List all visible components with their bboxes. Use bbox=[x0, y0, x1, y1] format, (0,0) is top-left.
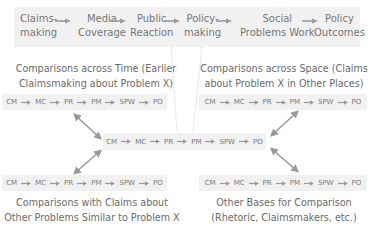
caption-time-comparison: Comparisons across Time (Earlier Claimsm… bbox=[10, 61, 182, 91]
right-arrow-icon bbox=[139, 100, 149, 105]
caption-other-bases-comparison: Other Bases for Comparison (Rhetoric, Cl… bbox=[196, 195, 372, 225]
abbr-mc: MC bbox=[34, 179, 47, 187]
chain-row-center: CM MC PR PM SPW PO bbox=[103, 133, 266, 150]
right-arrow-icon bbox=[105, 181, 115, 186]
caption-line2: about Problem X in Other Places) bbox=[196, 76, 372, 91]
right-arrow-icon bbox=[50, 100, 60, 105]
right-arrow-icon bbox=[304, 100, 314, 105]
chain-row-time: CM MC PR PM SPW PO bbox=[2, 94, 167, 110]
right-arrow-icon bbox=[249, 100, 259, 105]
caption-space-comparison: Comparisons across Space (Claims about P… bbox=[196, 61, 372, 91]
abbr-spw: SPW bbox=[118, 98, 136, 106]
caption-line1: Other Bases for Comparison bbox=[196, 195, 372, 210]
abbr-cm: CM bbox=[5, 98, 18, 106]
right-arrow-icon bbox=[220, 100, 230, 105]
right-arrow-icon bbox=[304, 181, 314, 186]
right-arrow-icon bbox=[338, 100, 348, 105]
caption-line1: Comparisons across Time (Earlier bbox=[10, 61, 182, 76]
right-arrow-icon bbox=[205, 139, 215, 144]
caption-line1: Comparisons with Claims about bbox=[2, 195, 182, 210]
double-arrow-icon bbox=[76, 116, 99, 137]
right-arrow-icon bbox=[249, 181, 259, 186]
abbr-pr: PR bbox=[63, 179, 74, 187]
abbr-cm: CM bbox=[105, 138, 118, 146]
abbr-pm: PM bbox=[90, 98, 102, 106]
abbr-pr: PR bbox=[262, 179, 273, 187]
right-arrow-icon bbox=[121, 139, 131, 144]
abbr-cm: CM bbox=[204, 179, 217, 187]
abbr-pm: PM bbox=[90, 179, 102, 187]
abbr-pm: PM bbox=[289, 98, 301, 106]
abbr-po: PO bbox=[152, 179, 164, 187]
abbr-pr: PR bbox=[262, 98, 273, 106]
caption-line2: (Rhetoric, Claimsmakers, etc.) bbox=[196, 210, 372, 225]
abbr-po: PO bbox=[252, 138, 264, 146]
right-arrow-icon bbox=[77, 100, 87, 105]
right-arrow-icon bbox=[276, 181, 286, 186]
abbr-po: PO bbox=[351, 98, 363, 106]
abbr-cm: CM bbox=[5, 179, 18, 187]
right-arrow-icon bbox=[239, 139, 249, 144]
right-arrow-icon bbox=[77, 181, 87, 186]
right-arrow-icon bbox=[21, 181, 31, 186]
right-arrow-icon bbox=[177, 139, 187, 144]
abbr-spw: SPW bbox=[218, 138, 236, 146]
right-arrow-icon bbox=[21, 100, 31, 105]
chain-row-space: CM MC PR PM SPW PO bbox=[199, 94, 367, 110]
abbr-pm: PM bbox=[190, 138, 202, 146]
right-arrow-icon bbox=[276, 100, 286, 105]
right-arrow-icon bbox=[220, 181, 230, 186]
double-arrow-icon bbox=[273, 150, 296, 170]
double-arrow-icon bbox=[273, 113, 296, 134]
caption-line2: Claimsmaking about Problem X) bbox=[10, 76, 182, 91]
chain-row-other-bases: CM MC PR PM SPW PO bbox=[199, 175, 367, 191]
right-arrow-icon bbox=[105, 100, 115, 105]
chain-row-similar-problems: CM MC PR PM SPW PO bbox=[2, 175, 167, 191]
caption-line2: Other Problems Similar to Problem X bbox=[2, 210, 182, 225]
abbr-po: PO bbox=[351, 179, 363, 187]
right-arrow-icon bbox=[338, 181, 348, 186]
abbr-cm: CM bbox=[204, 98, 217, 106]
abbr-mc: MC bbox=[233, 98, 246, 106]
abbr-mc: MC bbox=[134, 138, 147, 146]
right-arrow-icon bbox=[150, 139, 160, 144]
double-arrow-icon bbox=[76, 152, 99, 172]
right-arrow-icon bbox=[50, 181, 60, 186]
abbr-pm: PM bbox=[289, 179, 301, 187]
caption-similar-problems-comparison: Comparisons with Claims about Other Prob… bbox=[2, 195, 182, 225]
abbr-pr: PR bbox=[163, 138, 174, 146]
caption-line1: Comparisons across Space (Claims bbox=[196, 61, 372, 76]
abbr-spw: SPW bbox=[118, 179, 136, 187]
abbr-mc: MC bbox=[34, 98, 47, 106]
abbr-pr: PR bbox=[63, 98, 74, 106]
abbr-spw: SPW bbox=[317, 179, 335, 187]
abbr-mc: MC bbox=[233, 179, 246, 187]
abbr-spw: SPW bbox=[317, 98, 335, 106]
right-arrow-icon bbox=[139, 181, 149, 186]
abbr-po: PO bbox=[152, 98, 164, 106]
